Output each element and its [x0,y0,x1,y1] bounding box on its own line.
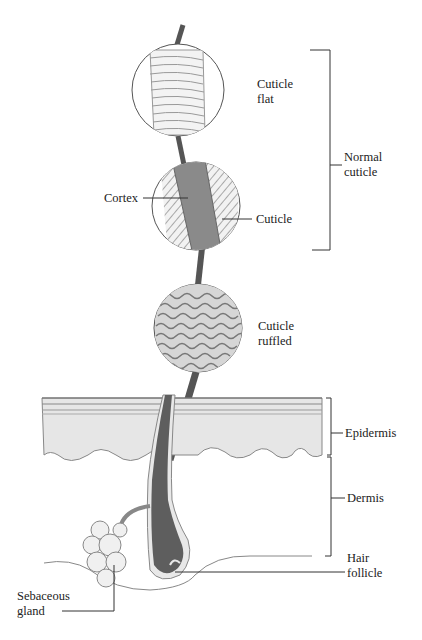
label-normal-cuticle-1: Normal [344,150,383,164]
label-cuticle-flat-1: Cuticle [257,77,294,91]
label-hair-follicle-2: follicle [347,566,383,580]
sebaceous-gland [83,506,150,587]
hair-anatomy-diagram: Cuticle flat Normal cuticle Cortex Cutic… [0,0,422,640]
label-hair-follicle-1: Hair [347,551,370,565]
label-dermis: Dermis [347,491,384,505]
normal-cuticle-magnification [152,160,240,255]
epidermis-layer [42,398,322,461]
label-sebaceous-gland-2: gland [17,604,46,618]
label-cortex: Cortex [104,191,139,205]
dermis-bracket [325,457,345,556]
label-cuticle-ruffled-1: Cuticle [258,319,295,333]
epidermis-bracket [326,398,343,455]
normal-cuticle-bracket [310,50,342,250]
label-normal-cuticle-2: cuticle [344,165,378,179]
label-sebaceous-gland-1: Sebaceous [17,589,70,603]
label-cuticle: Cuticle [256,212,293,226]
label-cuticle-ruffled-2: ruffled [258,334,293,348]
cuticle-flat-magnification [132,44,224,136]
label-epidermis: Epidermis [345,426,397,440]
cuticle-ruffled-magnification [154,284,246,374]
label-cuticle-flat-2: flat [257,92,274,106]
